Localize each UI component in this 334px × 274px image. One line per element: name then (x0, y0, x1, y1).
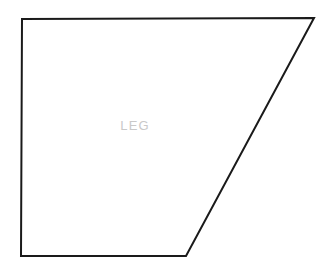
leg-shape-svg (0, 0, 334, 274)
drawing-canvas: LEG (0, 0, 334, 274)
